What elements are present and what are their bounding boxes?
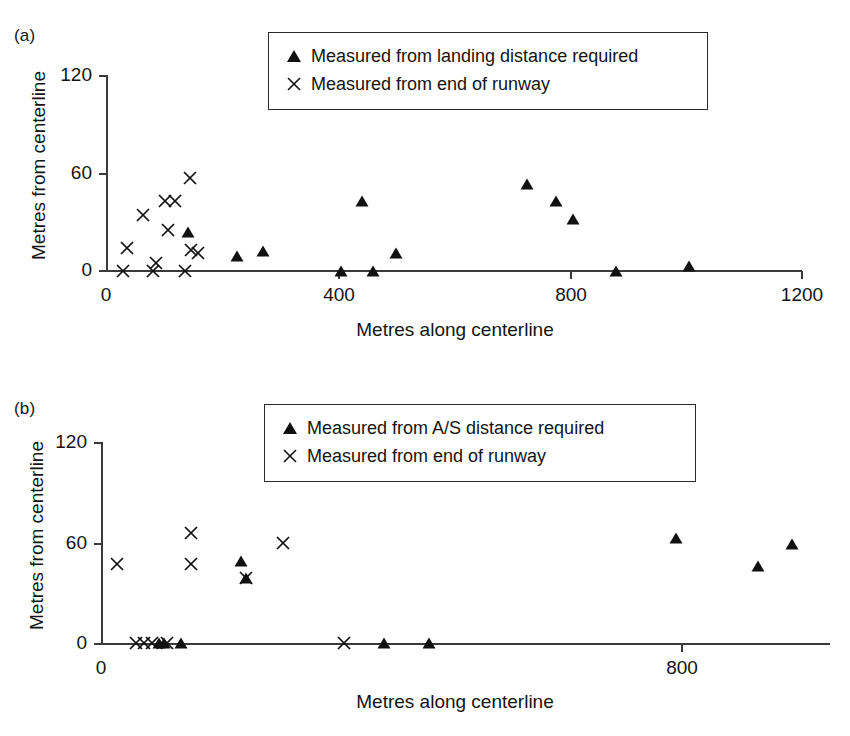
triangle-marker-icon <box>367 265 380 276</box>
triangle-marker-icon <box>567 213 580 224</box>
cross-marker-icon <box>182 170 197 185</box>
cross-marker-icon <box>337 636 352 651</box>
panel-a-plot-area <box>0 0 850 368</box>
cross-marker-icon <box>135 208 150 223</box>
triangle-marker-icon <box>378 638 391 649</box>
triangle-marker-icon <box>390 247 403 258</box>
triangle-marker-icon <box>549 195 562 206</box>
cross-marker-icon <box>144 636 159 651</box>
triangle-marker-icon <box>610 265 623 276</box>
cross-marker-icon <box>177 263 192 278</box>
cross-marker-icon <box>183 525 198 540</box>
cross-marker-icon <box>160 223 175 238</box>
triangle-marker-icon <box>231 251 244 262</box>
triangle-marker-icon <box>175 638 188 649</box>
panel-a: (a) Metres from centerline 120 60 0 0 40… <box>0 0 850 368</box>
cross-marker-icon <box>190 245 205 260</box>
cross-marker-icon <box>275 535 290 550</box>
triangle-marker-icon <box>257 246 270 257</box>
cross-marker-icon <box>149 255 164 270</box>
cross-marker-icon <box>116 263 131 278</box>
triangle-marker-icon <box>520 179 533 190</box>
triangle-marker-icon <box>355 195 368 206</box>
triangle-marker-icon <box>335 265 348 276</box>
triangle-marker-icon <box>669 532 682 543</box>
triangle-marker-icon <box>235 556 248 567</box>
triangle-marker-icon <box>786 539 799 550</box>
triangle-marker-icon <box>181 226 194 237</box>
cross-marker-icon <box>110 557 125 572</box>
cross-marker-icon <box>168 193 183 208</box>
triangle-marker-icon <box>682 260 695 271</box>
cross-marker-icon <box>183 557 198 572</box>
cross-marker-icon <box>238 570 253 585</box>
cross-marker-icon <box>160 636 175 651</box>
triangle-marker-icon <box>423 638 436 649</box>
panel-b-plot-area <box>0 368 850 736</box>
panel-b: (b) Metres from centerline 120 60 0 0 80… <box>0 368 850 736</box>
triangle-marker-icon <box>751 561 764 572</box>
cross-marker-icon <box>120 240 135 255</box>
